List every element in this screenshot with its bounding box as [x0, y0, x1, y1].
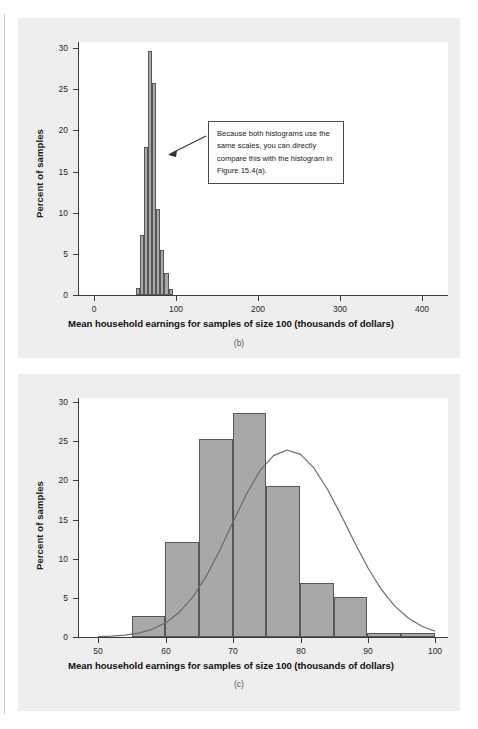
histogram-bar [300, 583, 334, 637]
y-tick-c-25 [73, 441, 78, 442]
panel-caption-b: (b) [18, 338, 460, 348]
y-tick-label-b-30: 30 [46, 43, 68, 53]
histogram-bar [401, 633, 435, 637]
y-tick-label-c-5: 5 [46, 593, 68, 603]
y-tick-label-b-20: 20 [46, 125, 68, 135]
y-axis-line-b [78, 42, 79, 296]
x-tick-label-c-100: 100 [418, 646, 452, 656]
page-edge-rule [4, 14, 5, 714]
y-tick-c-20 [73, 480, 78, 481]
y-tick-label-b-5: 5 [46, 249, 68, 259]
x-tick-label-b-0: 0 [77, 304, 111, 314]
x-tick-c-70 [233, 638, 234, 643]
x-tick-c-90 [368, 638, 369, 643]
x-tick-label-c-60: 60 [149, 646, 183, 656]
y-tick-b-25 [73, 89, 78, 90]
y-tick-b-0 [73, 295, 78, 296]
x-axis-line-c [78, 637, 448, 638]
chart-panel-b: 30 25 20 15 10 5 0 Percent of samples 0 … [18, 18, 460, 358]
x-tick-label-b-400: 400 [405, 304, 439, 314]
x-tick-b-0 [94, 296, 95, 301]
histogram-bar [334, 597, 368, 637]
y-tick-label-c-10: 10 [46, 554, 68, 564]
x-tick-c-100 [435, 638, 436, 643]
panel-caption-c: (c) [18, 679, 460, 689]
y-axis-title-c: Percent of samples [34, 481, 45, 570]
y-tick-label-c-0: 0 [46, 632, 68, 642]
x-axis-title-b: Mean household earnings for samples of s… [68, 318, 394, 329]
y-tick-b-20 [73, 130, 78, 131]
y-tick-b-15 [73, 172, 78, 173]
x-axis-title-c: Mean household earnings for samples of s… [68, 660, 394, 671]
y-tick-c-0 [73, 637, 78, 638]
x-tick-b-400 [422, 296, 423, 301]
histogram-bar [233, 413, 267, 637]
y-tick-label-b-10: 10 [46, 208, 68, 218]
annotation-callout-b: Because both histograms use the same sca… [208, 121, 344, 184]
x-tick-label-c-70: 70 [216, 646, 250, 656]
x-tick-b-300 [340, 296, 341, 301]
y-tick-c-10 [73, 559, 78, 560]
x-axis-line-b [78, 295, 448, 296]
y-tick-c-15 [73, 520, 78, 521]
x-tick-b-100 [176, 296, 177, 301]
x-tick-label-c-90: 90 [351, 646, 385, 656]
histogram-bar [165, 542, 199, 637]
y-axis-title-b: Percent of samples [34, 129, 45, 218]
histogram-bar [169, 289, 173, 295]
x-tick-c-80 [301, 638, 302, 643]
y-tick-label-c-30: 30 [46, 397, 68, 407]
x-tick-label-b-300: 300 [323, 304, 357, 314]
y-tick-label-c-25: 25 [46, 436, 68, 446]
y-tick-b-10 [73, 213, 78, 214]
y-axis-line-c [78, 398, 79, 638]
y-tick-label-b-15: 15 [46, 167, 68, 177]
x-tick-label-c-50: 50 [81, 646, 115, 656]
x-tick-c-60 [166, 638, 167, 643]
x-tick-c-50 [98, 638, 99, 643]
histogram-bar [266, 486, 300, 637]
histogram-bar [132, 616, 166, 637]
x-tick-label-b-200: 200 [241, 304, 275, 314]
x-tick-b-200 [258, 296, 259, 301]
x-tick-label-b-100: 100 [159, 304, 193, 314]
y-tick-c-30 [73, 402, 78, 403]
y-tick-label-b-0: 0 [46, 290, 68, 300]
x-tick-label-c-80: 80 [284, 646, 318, 656]
histogram-bar [199, 439, 233, 637]
y-tick-label-c-20: 20 [46, 475, 68, 485]
figure-page: 30 25 20 15 10 5 0 Percent of samples 0 … [0, 0, 478, 729]
y-tick-b-30 [73, 48, 78, 49]
chart-panel-c: 30 25 20 15 10 5 0 Percent of samples 50… [18, 374, 460, 711]
y-tick-c-5 [73, 598, 78, 599]
y-tick-label-b-25: 25 [46, 84, 68, 94]
y-tick-b-5 [73, 254, 78, 255]
y-tick-label-c-15: 15 [46, 515, 68, 525]
histogram-bar [367, 633, 401, 637]
